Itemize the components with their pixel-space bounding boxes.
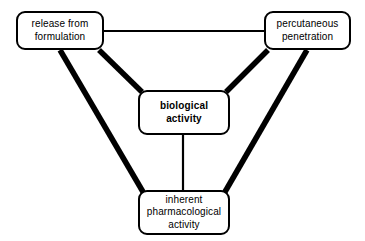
node-inherent-pharmacological-activity[interactable]: inherent pharmacological activity [138,190,230,235]
node-release-label: release from formulation [28,18,93,43]
node-biological-label: biological activity [156,100,212,125]
node-percutaneous-label: percutaneous penetration [273,18,343,43]
diagram-canvas: release from formulation percutaneous pe… [0,0,365,241]
connector-percutaneous-inherent [222,50,307,197]
node-biological-activity[interactable]: biological activity [138,90,230,135]
node-percutaneous-penetration[interactable]: percutaneous penetration [264,11,351,50]
connector-percutaneous-biological [226,50,268,92]
node-release-from-formulation[interactable]: release from formulation [16,11,104,50]
node-inherent-label: inherent pharmacological activity [143,194,225,232]
connector-release-inherent [60,50,146,197]
connector-release-biological [99,50,142,92]
